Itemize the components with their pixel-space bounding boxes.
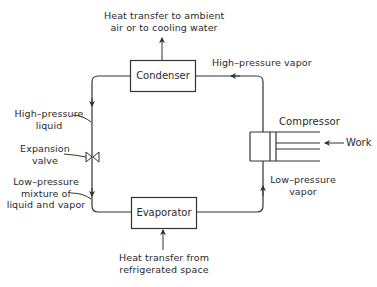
heat-in-line1: Heat transfer from xyxy=(110,252,218,264)
compressor-label: Compressor xyxy=(279,116,340,128)
expansion-valve-right xyxy=(93,152,99,162)
vapor-line-top-right xyxy=(196,76,264,132)
lpm-line1: Low–pressure xyxy=(6,176,86,188)
lpv-line1: Low–pressure xyxy=(268,174,338,186)
high-pressure-liquid-label: High–pressure liquid xyxy=(14,108,84,131)
liquid-line-left xyxy=(92,76,132,212)
heat-out-label: Heat transfer to ambient air or to cooli… xyxy=(104,10,224,33)
heat-out-line2: air or to cooling water xyxy=(104,22,224,34)
hpl-line1: High–pressure xyxy=(14,108,84,120)
heat-in-line2: refrigerated space xyxy=(110,264,218,276)
lpm-line3: liquid and vapor xyxy=(6,199,86,211)
lpv-line2: vapor xyxy=(268,186,338,198)
vapor-line-bottom-right xyxy=(197,161,264,212)
evaporator-label: Evaporator xyxy=(131,207,197,219)
heat-out-line1: Heat transfer to ambient xyxy=(104,10,224,22)
hpl-line2: liquid xyxy=(14,120,84,132)
heat-in-label: Heat transfer from refrigerated space xyxy=(110,252,218,275)
low-pressure-mixture-label: Low–pressure mixture of liquid and vapor xyxy=(6,176,86,211)
expansion-valve-left xyxy=(86,152,92,162)
condenser-label: Condenser xyxy=(130,70,196,82)
work-label: Work xyxy=(346,137,372,149)
ev-line2: valve xyxy=(18,155,72,167)
low-pressure-vapor-label: Low–pressure vapor xyxy=(268,174,338,197)
expansion-valve-label: Expansion valve xyxy=(18,143,72,166)
lpm-line2: mixture of xyxy=(6,188,86,200)
high-pressure-vapor-label: High–pressure vapor xyxy=(212,57,312,69)
ev-line1: Expansion xyxy=(18,143,72,155)
